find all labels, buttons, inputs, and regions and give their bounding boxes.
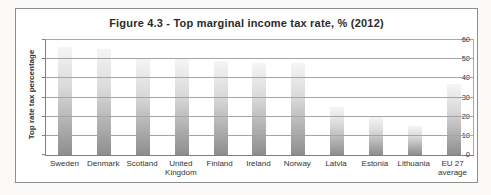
x-label-lithuania: Lithuania	[394, 159, 433, 177]
x-label-norway: Norway	[278, 159, 317, 177]
chart-title: Figure 4.3 - Top marginal income tax rat…	[16, 17, 477, 29]
bar-scotland	[136, 59, 150, 155]
bar-latvia	[330, 107, 344, 155]
figure-frame: Figure 4.3 - Top marginal income tax rat…	[15, 8, 478, 183]
x-label-ireland: Ireland	[239, 159, 278, 177]
gridline-50	[46, 58, 473, 59]
y-axis-title: Top rate tax percentage	[27, 37, 36, 152]
gridline-40	[46, 77, 473, 78]
y-tick-mark-0	[42, 154, 45, 155]
x-label-estonia: Estonia	[356, 159, 395, 177]
x-label-finland: Finland	[200, 159, 239, 177]
bar-eu-27-average	[447, 84, 461, 155]
x-label-scotland: Scotland	[123, 159, 162, 177]
x-label-sweden: Sweden	[45, 159, 84, 177]
x-axis-labels: SwedenDenmarkScotlandUnited KingdomFinla…	[45, 159, 472, 177]
y-tick-mark-40	[42, 77, 45, 78]
y-tick-mark-30	[42, 97, 45, 98]
gridline-30	[46, 97, 473, 98]
plot-area	[45, 39, 474, 156]
page: { "chart_data": { "type": "bar", "title"…	[0, 0, 491, 195]
y-tick-mark-20	[42, 116, 45, 117]
gridline-10	[46, 135, 473, 136]
bar-sweden	[58, 47, 72, 155]
y-tick-mark-50	[42, 58, 45, 59]
x-label-latvia: Latvia	[317, 159, 356, 177]
bar-finland	[214, 61, 228, 155]
x-label-eu-27-average: EU 27 average	[433, 159, 472, 177]
gridline-20	[46, 116, 473, 117]
x-label-united-kingdom: United Kingdom	[161, 159, 200, 177]
bar-lithuania	[408, 126, 422, 155]
bar-united-kingdom	[175, 59, 189, 155]
y-tick-mark-60	[42, 39, 45, 40]
x-label-denmark: Denmark	[84, 159, 123, 177]
y-tick-mark-10	[42, 135, 45, 136]
bar-denmark	[97, 49, 111, 155]
